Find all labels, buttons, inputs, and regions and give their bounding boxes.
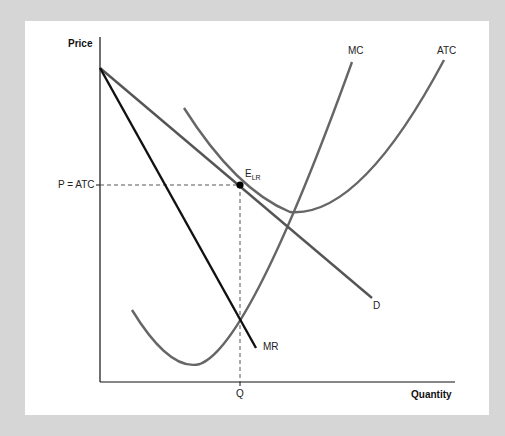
x-axis-label: Quantity <box>411 389 452 400</box>
atc-curve <box>184 60 444 212</box>
mr-label: MR <box>263 341 279 352</box>
y-axis-label: Price <box>68 38 92 49</box>
mc-curve <box>132 62 352 365</box>
d-label: D <box>373 300 380 311</box>
chart-plot <box>0 0 505 436</box>
equilibrium-label-main: E <box>245 168 252 179</box>
mr-curve <box>100 68 256 348</box>
p-atc-label: P = ATC <box>58 179 95 190</box>
equilibrium-label-sub: LR <box>252 174 261 181</box>
mc-label: MC <box>348 45 364 56</box>
equilibrium-point <box>236 181 243 188</box>
q-label: Q <box>236 388 244 399</box>
demand-curve <box>100 68 372 298</box>
equilibrium-label: ELR <box>245 168 261 179</box>
atc-label: ATC <box>437 45 456 56</box>
